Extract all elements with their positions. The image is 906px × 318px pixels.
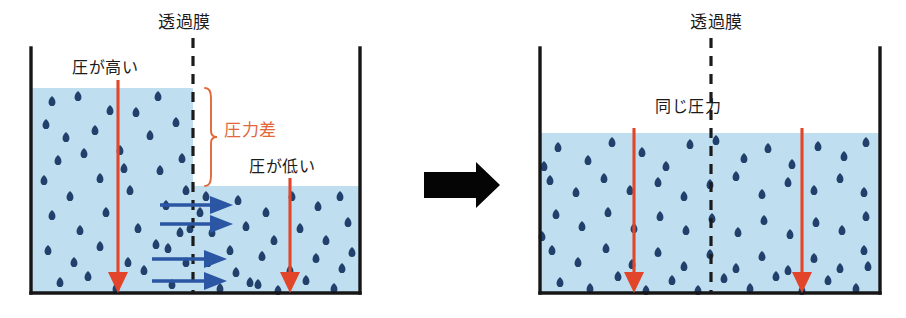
right-panel-after-state: 透過膜 同じ圧力 bbox=[500, 0, 906, 318]
transition-arrow-figure bbox=[400, 0, 500, 318]
pressure-difference-bracket bbox=[205, 88, 217, 186]
water-body-equalized bbox=[540, 133, 880, 294]
right-panel-figure bbox=[500, 0, 906, 318]
water-high-side bbox=[31, 88, 193, 294]
diagram-canvas: 透過膜 圧が高い 圧が低い 圧力差 bbox=[0, 0, 906, 318]
transition-arrow bbox=[424, 162, 500, 208]
left-panel-figure bbox=[0, 0, 400, 318]
left-panel-before-state: 透過膜 圧が高い 圧が低い 圧力差 bbox=[0, 0, 400, 318]
